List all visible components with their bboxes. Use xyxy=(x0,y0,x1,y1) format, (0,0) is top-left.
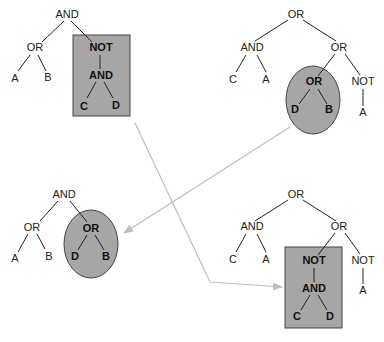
node-b: B xyxy=(44,71,51,83)
node-not: NOT xyxy=(351,254,375,266)
node-a: A xyxy=(262,73,270,85)
node-b: B xyxy=(102,250,110,262)
node-and: AND xyxy=(89,69,113,81)
node-or: OR xyxy=(331,220,348,232)
node-or: OR xyxy=(331,41,348,53)
node-and: AND xyxy=(240,41,263,53)
node-b: B xyxy=(45,250,52,262)
node-not: NOT xyxy=(351,75,375,87)
node-d: D xyxy=(326,310,334,322)
node-d: D xyxy=(291,103,299,115)
node-not: NOT xyxy=(302,254,326,266)
node-or: OR xyxy=(83,222,100,234)
offspring1-highlight-ellipse xyxy=(64,210,118,278)
node-and: AND xyxy=(55,8,78,20)
node-or: OR xyxy=(288,8,305,20)
node-or: OR xyxy=(24,221,41,233)
node-c: C xyxy=(80,100,88,112)
node-a: A xyxy=(359,284,367,296)
arrow-parent2-to-offspring1 xyxy=(124,127,290,233)
node-a: A xyxy=(359,106,367,118)
node-d: D xyxy=(112,99,120,111)
parent2-tree: OR AND C A OR OR D B NOT A xyxy=(229,8,375,134)
node-d: D xyxy=(71,250,79,262)
node-or: OR xyxy=(306,75,323,87)
node-and: AND xyxy=(302,282,326,294)
node-and: AND xyxy=(240,220,263,232)
crossover-diagram: AND OR A B NOT AND C D OR AND C A OR OR … xyxy=(0,0,384,342)
offspring1-tree: AND OR A B OR D B xyxy=(11,188,118,278)
node-or: OR xyxy=(288,188,305,200)
parent1-tree: AND OR A B NOT AND C D xyxy=(11,8,130,116)
node-a: A xyxy=(262,253,270,265)
node-c: C xyxy=(293,310,301,322)
node-a: A xyxy=(11,252,19,264)
node-c: C xyxy=(229,253,237,265)
node-a: A xyxy=(11,72,19,84)
node-b: B xyxy=(325,103,333,115)
node-and: AND xyxy=(52,188,75,200)
node-not: NOT xyxy=(89,41,113,53)
offspring2-tree: OR AND C A OR NOT AND C D NOT A xyxy=(229,188,375,328)
arrow-parent1-to-offspring2 xyxy=(135,123,282,287)
node-or: OR xyxy=(27,41,44,53)
node-c: C xyxy=(229,73,237,85)
